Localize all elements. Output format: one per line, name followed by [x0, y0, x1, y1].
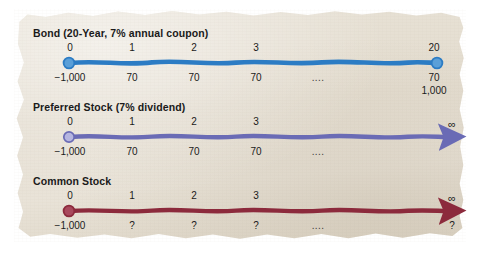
preferred-flow-ellipsis: .... — [312, 146, 325, 157]
bond-flow-0: −1,000 — [55, 72, 86, 83]
bond-timeline-line — [60, 55, 446, 71]
bond-flow-end-principal: 1,000 — [421, 85, 446, 96]
preferred-tick-0: 0 — [67, 116, 73, 127]
common-flow-end: ? — [449, 220, 455, 231]
bond-flow-2: 70 — [188, 72, 199, 83]
preferred-tick-3: 3 — [253, 116, 259, 127]
bond-flow-ellipsis: .... — [312, 72, 325, 83]
bond-tick-2: 2 — [191, 42, 197, 53]
common-tick-2: 2 — [191, 190, 197, 201]
common-tick-3: 3 — [253, 190, 259, 201]
bond-flow-end: 70 — [428, 72, 439, 83]
common-flow-ellipsis: .... — [312, 220, 325, 231]
common-tick-1: 1 — [129, 190, 135, 201]
preferred-flow-2: 70 — [188, 146, 199, 157]
bond-tick-0: 0 — [67, 42, 73, 53]
preferred-tick-1: 1 — [129, 116, 135, 127]
common-timeline-line — [60, 203, 464, 219]
bond-flow-3: 70 — [250, 72, 261, 83]
preferred-timeline-line — [60, 129, 464, 145]
common-flow-0: −1,000 — [55, 220, 86, 231]
section-title-bond: Bond (20-Year, 7% annual coupon) — [33, 27, 208, 39]
preferred-tick-2: 2 — [191, 116, 197, 127]
common-flow-2: ? — [191, 220, 197, 231]
diagram-content: Bond (20-Year, 7% annual coupon) 0 1 2 3… — [0, 0, 482, 257]
bond-tick-3: 3 — [253, 42, 259, 53]
common-flow-1: ? — [129, 220, 135, 231]
preferred-flow-3: 70 — [250, 146, 261, 157]
section-title-preferred-stock: Preferred Stock (7% dividend) — [33, 101, 185, 113]
common-tick-0: 0 — [67, 190, 73, 201]
section-title-common-stock: Common Stock — [33, 175, 111, 187]
preferred-flow-1: 70 — [126, 146, 137, 157]
bond-tick-1: 1 — [129, 42, 135, 53]
common-flow-3: ? — [253, 220, 259, 231]
bond-flow-1: 70 — [126, 72, 137, 83]
preferred-flow-0: −1,000 — [55, 146, 86, 157]
figure-canvas: Bond (20-Year, 7% annual coupon) 0 1 2 3… — [0, 0, 482, 257]
bond-tick-end: 20 — [428, 42, 439, 53]
